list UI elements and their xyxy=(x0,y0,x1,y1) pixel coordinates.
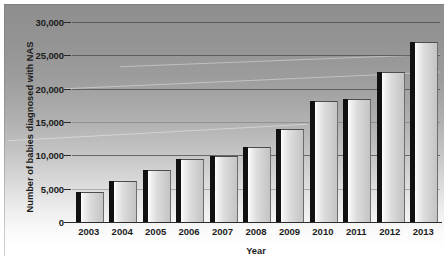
bar-front-face xyxy=(148,170,171,222)
bar xyxy=(310,101,338,222)
x-axis-tick-label: 2007 xyxy=(206,226,239,237)
bar xyxy=(176,159,204,222)
gridline xyxy=(72,55,440,56)
bar-front-face xyxy=(415,42,438,222)
bar xyxy=(210,156,238,222)
y-axis-tick xyxy=(64,155,71,156)
bar-front-face xyxy=(81,192,104,222)
bar-front-face xyxy=(315,101,338,222)
x-axis-line xyxy=(68,222,442,223)
y-axis-title: Number of babies diagnosed with NAS xyxy=(25,22,35,232)
bar-front-face xyxy=(348,99,371,222)
bar xyxy=(143,170,171,222)
bar-front-face xyxy=(114,181,137,222)
bar xyxy=(109,181,137,222)
x-axis-tick-label: 2005 xyxy=(139,226,172,237)
bar-front-face xyxy=(181,159,204,222)
x-axis-tick-label: 2010 xyxy=(306,226,339,237)
x-axis-tick-label: 2012 xyxy=(373,226,406,237)
y-axis-tick xyxy=(64,122,71,123)
x-axis-tick-label: 2006 xyxy=(172,226,205,237)
x-axis-tick-label: 2008 xyxy=(239,226,272,237)
y-axis-tick xyxy=(64,189,71,190)
bar-front-face xyxy=(248,147,271,222)
bar xyxy=(276,129,304,222)
y-axis-tick xyxy=(64,222,71,223)
y-axis-tick-label: 25,000 xyxy=(36,50,64,61)
y-axis-tick xyxy=(64,55,71,56)
bar-front-face xyxy=(382,72,405,222)
y-axis-tick xyxy=(64,89,71,90)
bar-chart-figure: 05,00010,00015,00020,00025,00030,000 Num… xyxy=(0,0,448,265)
bar xyxy=(76,192,104,222)
y-axis-tick-label: 20,000 xyxy=(36,83,64,94)
x-axis-tick-label: 2009 xyxy=(273,226,306,237)
bar xyxy=(343,99,371,222)
y-axis-tick-label: 0 xyxy=(59,217,64,228)
gridline xyxy=(72,22,440,23)
y-axis-tick-label: 5,000 xyxy=(41,183,64,194)
bar xyxy=(377,72,405,222)
bar-front-face xyxy=(215,156,238,222)
y-axis-tick-label: 10,000 xyxy=(36,150,64,161)
bar xyxy=(243,147,271,222)
y-axis-tick-label: 15,000 xyxy=(36,117,64,128)
x-axis-tick-label: 2003 xyxy=(72,226,105,237)
y-axis-tick xyxy=(64,22,71,23)
x-axis-title: Year xyxy=(72,246,440,256)
x-axis-tick-label: 2013 xyxy=(407,226,440,237)
bar-front-face xyxy=(281,129,304,222)
x-axis-tick-label: 2011 xyxy=(340,226,373,237)
bar xyxy=(410,42,438,222)
y-axis-tick-label: 30,000 xyxy=(36,17,64,28)
x-axis-tick-label: 2004 xyxy=(105,226,138,237)
